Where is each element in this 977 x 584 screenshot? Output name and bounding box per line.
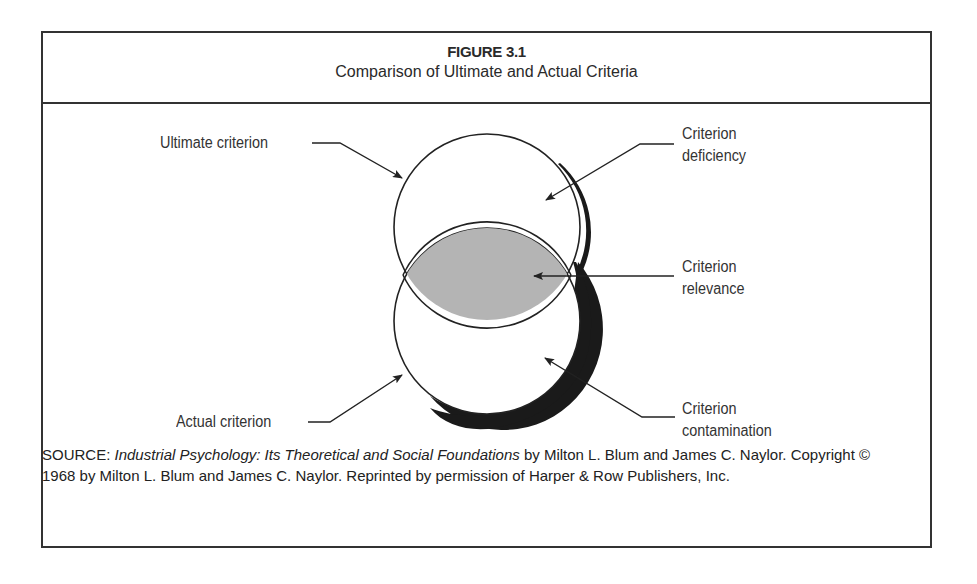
label-actual-criterion: Actual criterion [176,412,271,432]
source-citation: SOURCE: Industrial Psychology: Its Theor… [42,444,902,486]
source-prefix: SOURCE: [42,446,115,463]
label-contamination-2: contamination [682,421,772,441]
venn-diagram [0,0,977,584]
label-deficiency-2: deficiency [682,146,746,166]
actual-arrow [308,375,402,422]
source-book-title: Industrial Psychology: Its Theoretical a… [115,446,520,463]
ultimate-arrow [312,143,402,178]
label-relevance-2: relevance [682,279,744,299]
label-relevance-1: Criterion [682,257,736,277]
label-contamination-1: Criterion [682,399,736,419]
label-deficiency-1: Criterion [682,124,736,144]
label-ultimate-criterion: Ultimate criterion [160,133,268,153]
